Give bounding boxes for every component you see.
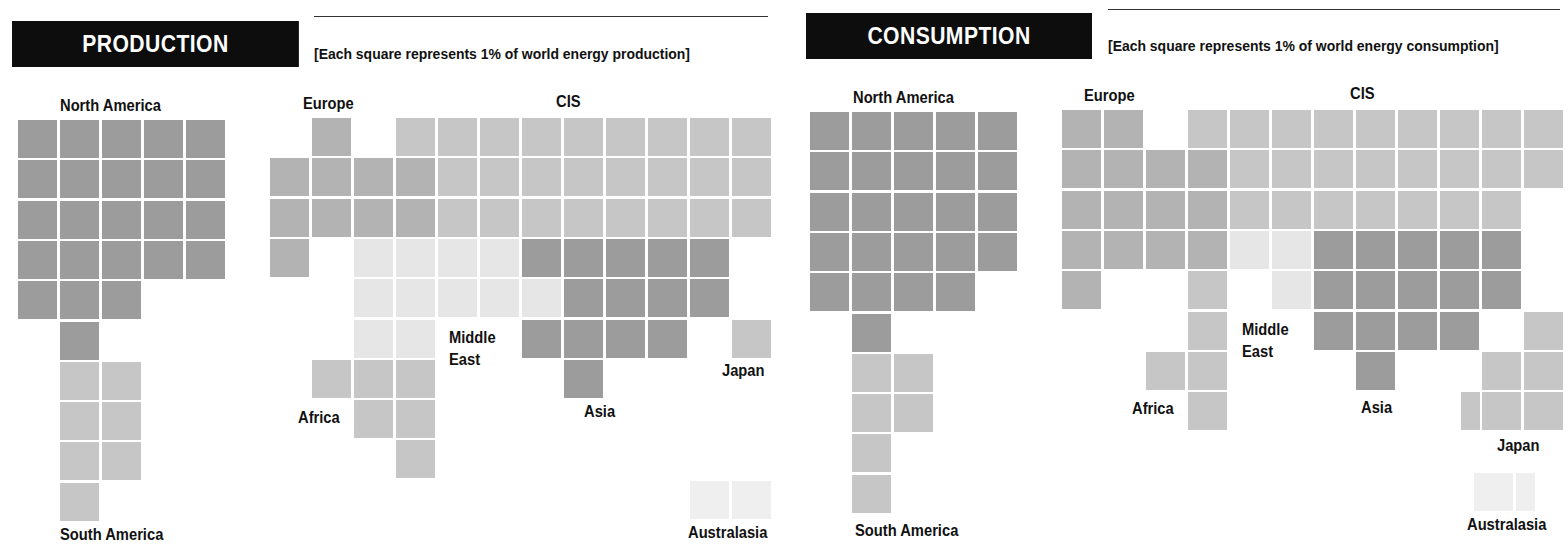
consumption-square-cis [1188, 110, 1227, 148]
production-square-europe [312, 199, 351, 237]
production-label-middle-east-line1: Middle [449, 328, 496, 348]
production-square-australasia [690, 481, 729, 519]
consumption-label-japan: Japan [1497, 436, 1540, 456]
consumption-square-south-america [894, 394, 933, 432]
production-square-cis [564, 158, 603, 196]
consumption-label-cis: CIS [1350, 84, 1375, 104]
production-square-cis [606, 158, 645, 196]
consumption-square-cis [1482, 110, 1521, 148]
consumption-square-cis [1272, 150, 1311, 188]
production-square-middle-east [522, 279, 561, 317]
consumption-square-north-america [810, 233, 849, 271]
consumption-square-cis [1398, 150, 1437, 188]
consumption-square-asia [1398, 312, 1437, 350]
consumption-square-europe [1104, 231, 1143, 269]
consumption-square-asia [1314, 231, 1353, 269]
consumption-square-north-america [936, 193, 975, 231]
consumption-square-north-america [810, 112, 849, 150]
consumption-square-africa [1188, 271, 1227, 309]
production-square-cis [396, 118, 435, 156]
production-square-cis [648, 118, 687, 156]
production-square-cis [690, 118, 729, 156]
production-square-north-america [18, 120, 57, 158]
consumption-square-middle-east [1272, 271, 1311, 309]
consumption-square-north-america [936, 152, 975, 190]
production-square-middle-east [354, 320, 393, 358]
production-square-cis [648, 199, 687, 237]
consumption-square-asia [1398, 231, 1437, 269]
consumption-square-japan [1482, 352, 1521, 390]
consumption-label-north-america: North America [853, 88, 954, 108]
consumption-square-south-america [894, 354, 933, 392]
consumption-label-middle-east-line1: Middle [1242, 320, 1289, 340]
consumption-square-north-america [852, 112, 891, 150]
production-label-north-america: North America [60, 96, 161, 116]
production-label-japan: Japan [722, 361, 765, 381]
production-square-north-america [102, 120, 141, 158]
consumption-square-asia [1314, 312, 1353, 350]
production-square-cis [522, 199, 561, 237]
consumption-square-north-america [894, 233, 933, 271]
consumption-square-south-america [852, 394, 891, 432]
consumption-square-asia [1356, 352, 1395, 390]
consumption-square-asia [1482, 231, 1521, 269]
waffle-squares-layer [0, 0, 1568, 560]
consumption-square-europe [1188, 191, 1227, 229]
production-square-north-america [18, 281, 57, 319]
production-square-africa [312, 360, 351, 398]
consumption-square-north-america [936, 233, 975, 271]
consumption-square-cis [1356, 150, 1395, 188]
consumption-square-north-america [894, 193, 933, 231]
consumption-square-cis [1398, 191, 1437, 229]
production-square-south-america [60, 442, 99, 480]
production-square-north-america [144, 160, 183, 198]
production-square-cis [438, 118, 477, 156]
production-square-europe [270, 239, 309, 277]
consumption-square-cis [1440, 150, 1479, 188]
consumption-square-japan [1524, 312, 1563, 350]
production-square-south-america [102, 402, 141, 440]
consumption-square-north-america [810, 152, 849, 190]
production-square-europe [270, 158, 309, 196]
production-square-cis [564, 199, 603, 237]
production-square-japan [732, 320, 771, 358]
production-square-asia [564, 320, 603, 358]
production-square-south-america [102, 442, 141, 480]
consumption-square-cis [1230, 150, 1269, 188]
consumption-square-north-america [894, 112, 933, 150]
production-square-africa [396, 360, 435, 398]
production-square-cis [480, 118, 519, 156]
consumption-square-north-america [936, 273, 975, 311]
production-square-asia [606, 239, 645, 277]
consumption-square-north-america [852, 152, 891, 190]
production-square-south-america [60, 362, 99, 400]
consumption-square-cis [1356, 191, 1395, 229]
consumption-label-south-america: South America [855, 521, 958, 541]
production-square-middle-east [354, 279, 393, 317]
consumption-square-australasia [1516, 473, 1535, 511]
production-square-asia [606, 320, 645, 358]
consumption-square-cis [1356, 110, 1395, 148]
consumption-square-europe [1062, 110, 1101, 148]
consumption-square-asia [1356, 271, 1395, 309]
production-square-middle-east [396, 239, 435, 277]
production-square-north-america [60, 160, 99, 198]
production-square-north-america [144, 120, 183, 158]
production-square-africa [354, 360, 393, 398]
production-square-cis [648, 158, 687, 196]
consumption-square-europe [1062, 271, 1101, 309]
consumption-square-north-america [852, 233, 891, 271]
production-square-asia [564, 239, 603, 277]
consumption-square-cis [1314, 110, 1353, 148]
production-square-north-america [18, 201, 57, 239]
production-label-asia: Asia [584, 402, 615, 422]
production-square-africa [396, 440, 435, 478]
consumption-square-cis [1482, 150, 1521, 188]
consumption-square-japan [1524, 352, 1563, 390]
consumption-square-cis [1272, 191, 1311, 229]
consumption-square-north-america [894, 152, 933, 190]
consumption-label-australasia: Australasia [1467, 515, 1546, 535]
production-square-south-america [60, 483, 99, 521]
production-square-africa [354, 400, 393, 438]
consumption-square-africa [1146, 352, 1185, 390]
